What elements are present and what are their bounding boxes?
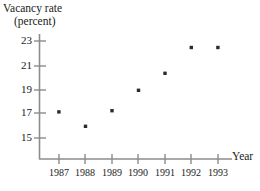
y-tick-label-19: 19 (10, 84, 32, 95)
plot-area (0, 0, 260, 191)
data-point-1990 (137, 89, 140, 92)
scatter-plot-figure: Vacancy rate (percent) (0, 0, 260, 191)
x-axis-title: Year (232, 150, 253, 162)
y-tick-label-21: 21 (10, 60, 32, 71)
y-tick-label-15: 15 (10, 132, 32, 143)
data-point-1992 (190, 46, 193, 49)
data-point-1991 (163, 72, 166, 75)
data-point-1989 (110, 109, 113, 112)
x-tick-label-1988: 1988 (70, 167, 100, 178)
x-tick-label-1993: 1993 (203, 167, 233, 178)
x-tick-label-1992: 1992 (176, 167, 206, 178)
y-tick-label-23: 23 (10, 35, 32, 46)
data-point-1987 (57, 110, 60, 113)
data-point-series (57, 46, 219, 128)
x-tick-label-1990: 1990 (123, 167, 153, 178)
data-point-1988 (84, 125, 87, 128)
y-tick-label-17: 17 (10, 107, 32, 118)
data-point-1993 (216, 46, 219, 49)
